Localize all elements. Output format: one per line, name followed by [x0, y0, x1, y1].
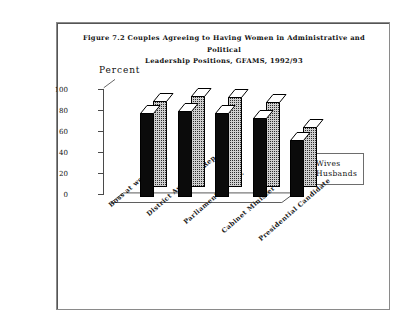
x-axis-labels: Boss at work placeDistrict Assembly Rep.…: [71, 199, 351, 299]
bar-husbands: [303, 121, 317, 187]
bar-top-cap: [178, 104, 192, 112]
y-axis-tick-label: 0: [64, 191, 68, 199]
plot-area: 100806040200: [71, 85, 303, 203]
bar-wives: [215, 107, 229, 197]
y-axis-tick: 0: [71, 194, 104, 195]
bar-top-cap: [228, 90, 242, 98]
y-axis-tick: 80: [71, 110, 104, 111]
bar-front-face: [178, 111, 192, 197]
y-axis-tick-label: 80: [59, 107, 68, 115]
bar-wives: [178, 105, 192, 197]
bar-group: [178, 85, 216, 197]
y-axis-label: Percent: [99, 65, 140, 75]
bar-group: [215, 85, 253, 197]
bar-front-face: [253, 118, 267, 197]
figure-frame: Figure 7.2 Couples Agreeing to Having Wo…: [56, 22, 390, 310]
bar-front-face: [215, 113, 229, 197]
y-axis-tick: 20: [71, 173, 104, 174]
chart-title: Figure 7.2 Couples Agreeing to Having Wo…: [67, 33, 381, 68]
legend-item-label: Wives: [316, 159, 341, 168]
bar-front-face: [290, 140, 304, 197]
y-axis-tick: 60: [71, 131, 104, 132]
bar-top-cap: [215, 106, 229, 114]
y-axis-tick-label: 100: [55, 86, 68, 94]
bar-top-cap: [303, 120, 317, 128]
bar-wives: [253, 112, 267, 197]
bar-wives: [290, 134, 304, 197]
y-axis-tick-label: 40: [59, 149, 68, 157]
bar-top-cap: [290, 133, 304, 141]
bar-front-face: [140, 113, 154, 197]
bar-group: [140, 85, 178, 197]
y-axis-tick: 100: [71, 89, 104, 90]
bar-top-cap: [153, 94, 167, 102]
bar-top-cap: [266, 95, 280, 103]
bar-top-cap: [191, 89, 205, 97]
bar-wives: [140, 107, 154, 197]
y-axis-tick-label: 20: [59, 170, 68, 178]
bar-top-cap: [253, 111, 267, 119]
legend-item-label: Husbands: [316, 169, 357, 178]
bar-group: [253, 85, 291, 197]
y-axis-tick: 40: [71, 152, 104, 153]
bar-top-cap: [140, 106, 154, 114]
y-axis-tick-label: 60: [59, 128, 68, 136]
